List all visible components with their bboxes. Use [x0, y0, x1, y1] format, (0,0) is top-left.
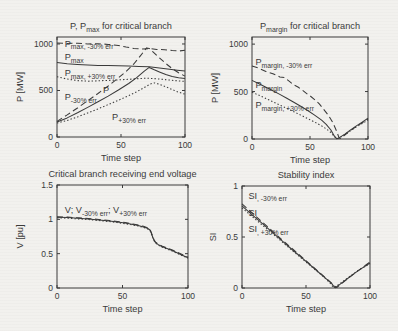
x-tick-label: 100 [361, 142, 375, 152]
label-text: P [103, 85, 109, 95]
y-tick-label: 1000 [229, 39, 248, 49]
y-tick-label: 1.5 [41, 180, 53, 190]
curve-label-voltage-0: V; V-30% err; V+30% err [65, 205, 148, 217]
label-subscript: max [71, 57, 84, 64]
y-tick-label: 1000 [34, 39, 53, 49]
figure-page: 05010005001000P, Pmax for critical branc… [0, 0, 398, 331]
x-axis-label: Time step [101, 153, 141, 163]
series-line-pmargin-p30 [252, 92, 368, 139]
label-subscript: max, -30% err [71, 43, 114, 50]
label-text: Critical branch receiving end voltage [48, 169, 196, 179]
x-tick-label: 50 [305, 142, 315, 152]
label-subscript: -30% err [82, 210, 109, 217]
y-axis-label: V [pu] [15, 224, 25, 248]
label-subscript: +30% err [119, 210, 148, 217]
y-tick-label: 1 [48, 214, 53, 224]
chart-title: Critical branch receiving end voltage [48, 169, 196, 179]
curve-label-pmargin-2: Pmargin, +30% err [255, 100, 314, 113]
label-subscript: , +30% err [257, 229, 289, 236]
x-tick-label: 50 [118, 291, 128, 301]
y-tick-label: 500 [234, 87, 248, 97]
curve-label-pmargin-0: Pmargin, -30% err [255, 57, 312, 70]
label-subscript: margin [262, 85, 283, 93]
y-tick-label: 0 [48, 283, 53, 293]
subplot-voltage: 05010000.511.5Critical branch receiving … [15, 169, 197, 314]
x-tick-label: 0 [55, 140, 60, 150]
label-subscript: , -30% err [257, 195, 288, 202]
y-axis-label: P [MW] [15, 72, 25, 102]
y-tick-label: 0.5 [41, 249, 53, 259]
label-subscript: margin [266, 26, 288, 34]
subplot-stability-index: 05010000.51Stability indexTime stepSISI,… [208, 170, 377, 314]
x-axis-label: Time step [103, 304, 143, 314]
label-subscript: max, +30% err [71, 73, 116, 80]
chart-title: Stability index [278, 170, 335, 180]
y-tick-label: 0 [243, 134, 248, 144]
subplot-p-pmax: 05010005001000P, Pmax for critical branc… [15, 21, 192, 163]
y-tick-label: 0.5 [226, 232, 238, 242]
curve-label-p-pmax-3: P [103, 85, 109, 95]
curve-label-stability-index-2: SI, +30% err [248, 224, 289, 236]
series-line-si [242, 206, 370, 288]
curve-label-p-pmax-5: P+30% err [112, 112, 147, 124]
series-line-si-m30 [242, 204, 370, 288]
series-line-pmargin-m30 [252, 66, 368, 139]
label-text: for critical branch [288, 21, 361, 31]
x-axis-label: Time step [290, 155, 330, 165]
curve-label-stability-index-1: SI [248, 208, 257, 218]
curve-label-stability-index-0: SI, -30% err [248, 191, 287, 203]
label-subscript: +30% err [118, 117, 147, 124]
curve-label-p-pmax-4: P-30% err [65, 92, 98, 104]
label-subscript: -30% err [71, 97, 98, 104]
y-tick-label: 500 [39, 85, 53, 95]
x-tick-label: 100 [181, 291, 195, 301]
label-text: P, P [70, 21, 86, 31]
series-line-v [57, 217, 188, 257]
x-tick-label: 50 [301, 291, 311, 301]
label-text: SI [248, 224, 257, 234]
label-text: SI [248, 191, 257, 201]
label-subscript: max [86, 26, 100, 33]
curve-label-p-pmax-1: Pmax [65, 52, 85, 64]
y-tick-label: 1 [233, 181, 238, 191]
curve-label-pmargin-1: Pmargin [255, 80, 282, 93]
x-tick-label: 100 [178, 140, 192, 150]
series-line-v-p30 [57, 218, 188, 258]
figure-canvas: 05010005001000P, Pmax for critical branc… [0, 0, 398, 331]
label-subscript: margin, +30% err [262, 105, 315, 113]
axes-box [57, 185, 188, 288]
label-subscript: margin, -30% err [262, 62, 313, 70]
x-tick-label: 0 [55, 291, 60, 301]
y-axis-label: SI [208, 233, 218, 242]
x-tick-label: 100 [363, 291, 377, 301]
x-axis-label: Time step [286, 304, 326, 314]
x-tick-label: 50 [116, 140, 126, 150]
y-tick-label: 0 [233, 283, 238, 293]
curve-label-p-pmax-2: Pmax, +30% err [65, 68, 116, 80]
label-text: Stability index [278, 170, 335, 180]
y-axis-label: P [MW] [210, 73, 220, 103]
chart-title: Pmargin for critical branch [260, 21, 360, 34]
label-text: for critical branch [99, 21, 172, 31]
label-text: SI [248, 208, 257, 218]
subplot-pmargin: 05010005001000Pmargin for critical branc… [210, 21, 375, 165]
y-tick-label: 0 [48, 132, 53, 142]
chart-title: P, Pmax for critical branch [70, 21, 172, 33]
x-tick-label: 0 [240, 291, 245, 301]
curve-label-p-pmax-0: Pmax, -30% err [65, 39, 115, 51]
label-text: V; V [65, 205, 83, 215]
x-tick-label: 0 [250, 142, 255, 152]
